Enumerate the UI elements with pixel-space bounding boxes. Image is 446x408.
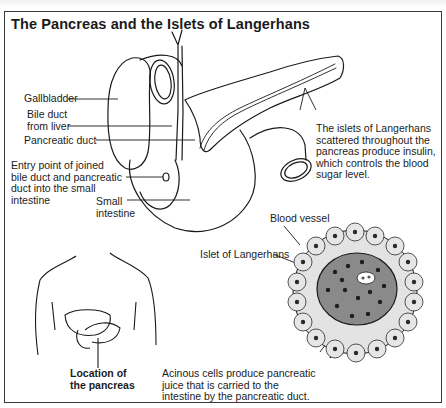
label-location: Location of the pancreas bbox=[70, 368, 135, 391]
label-pancreatic-duct: Pancreatic duct bbox=[24, 135, 96, 147]
diagram-title: The Pancreas and the Islets of Langerhan… bbox=[11, 16, 310, 32]
label-small-intestine: Small intestine bbox=[96, 196, 135, 219]
gallbladder-shape bbox=[108, 58, 150, 169]
label-bile-duct: Bile duct from liver bbox=[27, 109, 70, 132]
label-islet: Islet of Langerhans bbox=[200, 249, 289, 261]
label-blood-vessel: Blood vessel bbox=[270, 213, 330, 225]
islet-cluster bbox=[288, 223, 423, 362]
torso-figure bbox=[36, 253, 156, 368]
note-islets: The islets of Langerhans scattered throu… bbox=[316, 123, 436, 181]
blood-vessel-shape bbox=[357, 272, 375, 284]
note-acinous: Acinous cells produce pancreatic juice t… bbox=[162, 368, 316, 403]
label-gallbladder: Gallbladder bbox=[24, 93, 78, 105]
